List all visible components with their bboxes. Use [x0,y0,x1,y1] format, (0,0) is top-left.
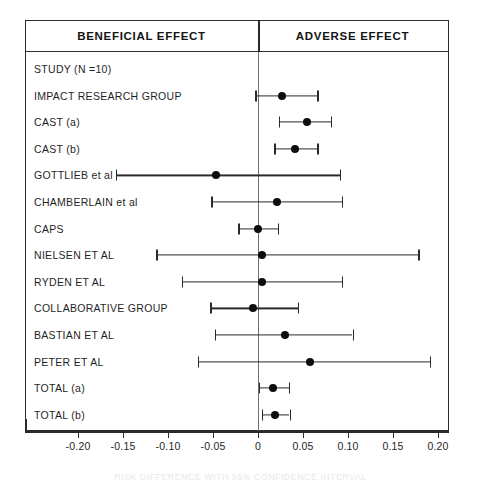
point-estimate-marker [271,411,279,419]
ci-lower-cap [274,143,275,154]
ci-lower-cap [211,197,212,208]
point-estimate-marker [269,384,277,392]
confidence-interval-line [116,175,340,176]
ci-upper-cap [317,143,318,154]
x-tick [168,431,169,438]
forest-row: PETER ET AL [25,349,449,375]
x-tick-label: -0.10 [156,440,181,452]
forest-row: RYDEN ET AL [25,269,449,295]
x-tick-label: -0.15 [111,440,136,452]
confidence-interval-line [156,255,418,256]
row-label: BASTIAN ET AL [34,329,114,341]
ci-upper-cap [353,330,354,341]
figure-caption: RISK DIFFERENCE WITH 95% CONFIDENCE INTE… [0,472,481,482]
row-label: CAPS [34,223,64,235]
ci-upper-cap [317,90,318,101]
x-tick [303,431,304,438]
ci-lower-cap [279,117,280,128]
row-label: TOTAL (a) [34,382,85,394]
row-label: IMPACT RESEARCH GROUP [34,90,182,102]
forest-row: COLLABORATIVE GROUP [25,295,449,321]
row-label: COLLABORATIVE GROUP [34,302,168,314]
header-adverse-effect: ADVERSE EFFECT [258,20,447,52]
x-axis [25,431,449,433]
point-estimate-marker [249,304,257,312]
x-tick-label: 0.10 [337,440,358,452]
row-label: CAST (b) [34,143,80,155]
forest-row: GOTTLIEB et al [25,162,449,188]
forest-row: BASTIAN ET AL [25,322,449,348]
forest-row: CAPS [25,216,449,242]
confidence-interval-line [255,95,317,96]
point-estimate-marker [281,331,289,339]
row-label: TOTAL (b) [34,409,85,421]
header-beneficial-effect: BENEFICIAL EFFECT [25,20,258,52]
point-estimate-marker [258,251,266,259]
x-axis-right-endcap [448,419,450,431]
ci-upper-cap [331,117,332,128]
ci-upper-cap [290,409,291,420]
ci-lower-cap [255,90,256,101]
forest-row: NIELSEN ET AL [25,242,449,268]
point-estimate-marker [258,278,266,286]
point-estimate-marker [291,145,299,153]
header-band: BENEFICIAL EFFECT ADVERSE EFFECT [25,20,449,52]
point-estimate-marker [273,198,281,206]
ci-upper-cap [430,356,431,367]
x-tick [78,431,79,438]
x-tick-label: 0.15 [382,440,403,452]
ci-lower-cap [238,223,239,234]
x-tick [123,431,124,438]
x-tick [393,431,394,438]
ci-lower-cap [182,276,183,287]
forest-row: CHAMBERLAIN et al [25,189,449,215]
point-estimate-marker [303,118,311,126]
forest-row: TOTAL (b) [25,402,449,428]
row-label: RYDEN ET AL [34,276,105,288]
x-tick-label: 0.05 [292,440,313,452]
ci-upper-cap [342,276,343,287]
point-estimate-marker [306,358,314,366]
point-estimate-marker [254,225,262,233]
row-label: STUDY (N =10) [34,63,112,75]
ci-upper-cap [342,197,343,208]
ci-upper-cap [278,223,279,234]
x-tick-label: 0.20 [427,440,448,452]
row-label: CAST (a) [34,116,80,128]
x-tick-label: -0.05 [201,440,226,452]
ci-upper-cap [418,250,419,261]
x-tick-label: 0 [255,440,261,452]
forest-row: TOTAL (a) [25,375,449,401]
point-estimate-marker [212,171,220,179]
row-label: CHAMBERLAIN et al [34,196,138,208]
ci-upper-cap [289,383,290,394]
x-tick [348,431,349,438]
row-label: PETER ET AL [34,356,104,368]
ci-lower-cap [215,330,216,341]
ci-lower-cap [262,409,263,420]
forest-row: CAST (b) [25,136,449,162]
forest-row: CAST (a) [25,109,449,135]
header-divider [258,20,260,52]
ci-lower-cap [156,250,157,261]
ci-lower-cap [198,356,199,367]
ci-upper-cap [340,170,341,181]
x-tick-label: -0.20 [66,440,91,452]
ci-lower-cap [116,170,117,181]
ci-lower-cap [210,303,211,314]
ci-upper-cap [298,303,299,314]
x-axis-left-endcap [25,419,27,431]
row-label: GOTTLIEB et al [34,169,113,181]
x-tick [213,431,214,438]
forest-row: IMPACT RESEARCH GROUP [25,83,449,109]
ci-lower-cap [259,383,260,394]
forest-row: STUDY (N =10) [25,56,449,82]
x-tick [438,431,439,438]
row-label: NIELSEN ET AL [34,249,114,261]
point-estimate-marker [278,92,286,100]
forest-plot-figure: BENEFICIAL EFFECT ADVERSE EFFECT STUDY (… [0,0,481,487]
x-tick [258,431,259,438]
